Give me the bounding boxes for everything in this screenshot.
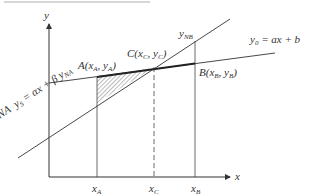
- point-A-label: A(xA, yA): [78, 60, 116, 73]
- y0-equation: y0 = ax + b: [250, 34, 300, 47]
- point-C-label: C(xC, yC): [127, 48, 166, 61]
- tick-xB: xB: [191, 183, 200, 196]
- diagram-canvas: [0, 0, 316, 196]
- tick-xC: xC: [149, 183, 159, 196]
- y-axis-label: y: [44, 10, 49, 21]
- yNB-label: yNB: [179, 28, 193, 41]
- x-axis-label: x: [235, 171, 240, 182]
- tick-xA: xA: [92, 183, 101, 196]
- diagram: y x A(xA, yA) C(xC, yC) B(xB, yB) yNB y0…: [0, 0, 316, 196]
- point-B-label: B(xB, yB): [199, 67, 237, 80]
